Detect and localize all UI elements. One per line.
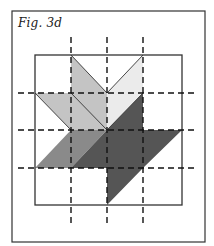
figure-3d: Fig. 3d — [0, 0, 214, 246]
quilt-block-diagram — [0, 0, 214, 246]
